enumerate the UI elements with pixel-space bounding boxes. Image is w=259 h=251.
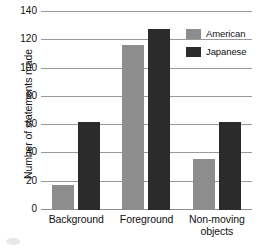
- y-axis-tick-label: 20: [26, 176, 37, 186]
- page-artifact: [6, 238, 20, 245]
- y-axis-tick-label: 100: [20, 63, 37, 73]
- x-axis-label-line: objects: [174, 225, 259, 237]
- y-axis-tick-label: 40: [26, 147, 37, 157]
- bar-american-0: [52, 185, 74, 210]
- bar-japanese-1: [148, 29, 170, 210]
- legend-label: Japanese: [206, 46, 246, 57]
- chart-legend: AmericanJapanese: [186, 26, 259, 62]
- bar-chart: Number of statements made 02040608010012…: [0, 0, 259, 251]
- bar-american-2: [193, 159, 215, 210]
- bar-group: [41, 12, 111, 210]
- x-axis-labels: BackgroundForegroundNon-movingobjects: [41, 213, 255, 249]
- legend-label: American: [206, 28, 245, 39]
- y-axis-tick-label: 60: [26, 119, 37, 129]
- y-axis-tick-label: 140: [20, 6, 37, 16]
- bar-japanese-2: [219, 122, 241, 210]
- bar-group: [111, 12, 181, 210]
- legend-swatch-icon: [186, 29, 201, 39]
- legend-item-japanese: Japanese: [186, 44, 259, 59]
- y-axis-tick-label: 120: [20, 34, 37, 44]
- x-axis-label-line: Non-moving: [174, 213, 259, 225]
- bar-japanese-0: [78, 122, 100, 210]
- bar-american-1: [122, 45, 144, 210]
- legend-swatch-icon: [186, 47, 201, 57]
- legend-item-american: American: [186, 26, 259, 41]
- y-axis-tick-label: 80: [26, 91, 37, 101]
- x-axis-label: Non-movingobjects: [174, 213, 259, 237]
